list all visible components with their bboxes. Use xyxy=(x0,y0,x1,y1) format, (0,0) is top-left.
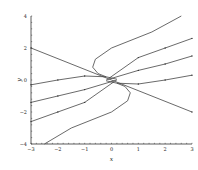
data-point xyxy=(191,111,192,112)
data-point xyxy=(30,84,31,85)
x-tick-label: 1 xyxy=(137,146,140,152)
data-point xyxy=(138,83,139,84)
series-traj-3 xyxy=(117,75,192,84)
series-curve-upper xyxy=(93,16,182,79)
data-point xyxy=(30,102,31,103)
series-traj-4 xyxy=(31,76,106,85)
x-tick-label: 3 xyxy=(190,146,193,152)
data-point xyxy=(30,121,31,122)
data-point xyxy=(138,70,139,71)
y-tick-label: 0 xyxy=(24,77,27,83)
data-point xyxy=(57,95,58,96)
data-point xyxy=(30,47,31,48)
data-point xyxy=(164,79,165,80)
x-axis-label: x xyxy=(110,155,114,162)
data-point xyxy=(138,57,139,58)
x-tick-label: 0 xyxy=(110,146,113,152)
chart: −3−2−10123−4−2024xy xyxy=(0,0,198,170)
data-point xyxy=(191,55,192,56)
data-point xyxy=(164,47,165,48)
y-tick-label: −4 xyxy=(20,141,27,147)
series-line xyxy=(31,48,192,112)
data-point xyxy=(164,63,165,64)
data-point xyxy=(191,75,192,76)
y-tick-label: 2 xyxy=(24,45,27,51)
data-point xyxy=(191,38,192,39)
data-point xyxy=(84,75,85,76)
y-axis-label: y xyxy=(15,78,23,83)
x-tick-label: −2 xyxy=(54,146,61,152)
x-tick-label: −1 xyxy=(81,146,88,152)
data-point xyxy=(57,79,58,80)
series-traj-5 xyxy=(31,80,117,102)
series-traj-2 xyxy=(106,56,192,80)
y-tick-label: −2 xyxy=(20,109,27,115)
y-tick-label: 4 xyxy=(24,13,27,19)
data-point xyxy=(57,111,58,112)
x-tick-label: 2 xyxy=(164,146,167,152)
x-tick-label: −3 xyxy=(27,146,34,152)
data-point xyxy=(84,89,85,90)
data-point xyxy=(84,102,85,103)
